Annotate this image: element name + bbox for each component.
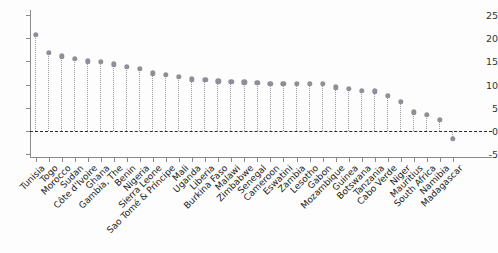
data-point-marker xyxy=(189,77,194,82)
x-tick-mark xyxy=(75,158,76,162)
x-tick-mark xyxy=(336,158,337,162)
x-tick-mark xyxy=(297,158,298,162)
data-point-stem xyxy=(413,112,414,131)
x-axis-spine xyxy=(30,157,492,158)
data-point-marker xyxy=(385,93,390,98)
data-point-stem xyxy=(361,91,362,131)
x-tick-mark xyxy=(127,158,128,162)
data-point-stem xyxy=(400,102,401,131)
x-tick-mark xyxy=(88,158,89,162)
x-tick-mark xyxy=(218,158,219,162)
x-tick-mark xyxy=(362,158,363,162)
y-tick-mark xyxy=(26,38,31,39)
data-point-marker xyxy=(176,74,181,79)
data-point-marker xyxy=(320,81,325,86)
y-tick-mark xyxy=(26,61,31,62)
data-point-stem xyxy=(283,84,284,131)
data-point-marker xyxy=(72,56,77,61)
data-point-marker xyxy=(111,61,116,66)
data-point-marker xyxy=(346,86,351,91)
y-tick-mark xyxy=(26,154,31,155)
data-point-stem xyxy=(35,35,36,131)
data-point-stem xyxy=(100,62,101,131)
data-point-stem xyxy=(230,82,231,131)
data-point-marker xyxy=(333,85,338,90)
data-point-stem xyxy=(296,84,297,131)
y-tick-label: 20 xyxy=(474,33,498,44)
data-point-marker xyxy=(46,50,51,55)
data-point-stem xyxy=(204,80,205,131)
data-point-stem xyxy=(61,56,62,131)
data-point-marker xyxy=(398,99,403,104)
data-point-stem xyxy=(48,53,49,131)
x-tick-mark xyxy=(375,158,376,162)
y-tick-label: 5 xyxy=(474,102,498,113)
x-tick-mark xyxy=(440,158,441,162)
data-point-stem xyxy=(139,69,140,131)
y-tick-mark xyxy=(26,85,31,86)
y-tick-label: 10 xyxy=(474,79,498,90)
x-tick-mark xyxy=(192,158,193,162)
data-point-marker xyxy=(150,71,155,76)
data-point-stem xyxy=(374,91,375,130)
data-point-stem xyxy=(257,83,258,131)
y-tick-mark xyxy=(26,15,31,16)
y-tick-label: 15 xyxy=(474,56,498,67)
data-point-marker xyxy=(202,77,207,82)
x-tick-mark xyxy=(36,158,37,162)
data-point-marker xyxy=(85,59,90,64)
data-point-stem xyxy=(426,115,427,131)
data-point-stem xyxy=(74,59,75,131)
x-tick-mark xyxy=(101,158,102,162)
data-point-stem xyxy=(113,64,114,131)
data-point-stem xyxy=(387,96,388,131)
data-point-marker xyxy=(294,81,299,86)
data-point-marker xyxy=(268,81,273,86)
x-tick-mark xyxy=(414,158,415,162)
data-point-marker xyxy=(59,54,64,59)
data-point-marker xyxy=(163,72,168,77)
data-point-stem xyxy=(217,81,218,131)
data-point-marker xyxy=(411,110,416,115)
data-point-marker xyxy=(359,88,364,93)
data-point-marker xyxy=(307,81,312,86)
data-point-stem xyxy=(191,79,192,130)
data-point-marker xyxy=(137,66,142,71)
x-tick-mark xyxy=(283,158,284,162)
data-point-marker xyxy=(33,32,38,37)
x-tick-mark xyxy=(310,158,311,162)
x-tick-mark xyxy=(453,158,454,162)
y-tick-label: -5 xyxy=(474,149,498,160)
y-tick-mark xyxy=(26,108,31,109)
zero-line xyxy=(30,131,492,132)
data-point-stem xyxy=(178,77,179,131)
x-tick-mark xyxy=(166,158,167,162)
x-tick-mark xyxy=(231,158,232,162)
data-point-stem xyxy=(165,75,166,131)
x-tick-mark xyxy=(153,158,154,162)
x-tick-mark xyxy=(257,158,258,162)
data-point-stem xyxy=(270,84,271,131)
data-point-marker xyxy=(98,59,103,64)
data-point-marker xyxy=(124,64,129,69)
data-point-marker xyxy=(281,81,286,86)
x-tick-mark xyxy=(401,158,402,162)
x-tick-mark xyxy=(244,158,245,162)
x-tick-mark xyxy=(388,158,389,162)
data-point-stem xyxy=(348,89,349,131)
data-point-stem xyxy=(152,73,153,130)
data-point-marker xyxy=(255,80,260,85)
x-tick-mark xyxy=(349,158,350,162)
x-tick-mark xyxy=(205,158,206,162)
x-tick-mark xyxy=(179,158,180,162)
x-tick-mark xyxy=(49,158,50,162)
data-point-marker xyxy=(424,112,429,117)
data-point-marker xyxy=(437,117,442,122)
x-tick-mark xyxy=(140,158,141,162)
x-tick-mark xyxy=(427,158,428,162)
x-tick-mark xyxy=(323,158,324,162)
x-tick-mark xyxy=(62,158,63,162)
data-point-stem xyxy=(309,84,310,131)
data-point-stem xyxy=(244,82,245,131)
data-point-stem xyxy=(126,67,127,131)
